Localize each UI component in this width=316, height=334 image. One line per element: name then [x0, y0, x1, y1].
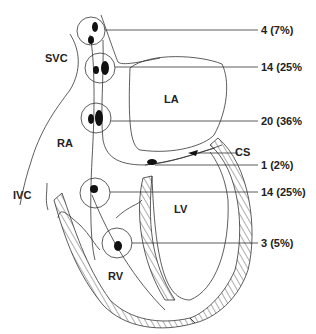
lesion-3a [88, 114, 94, 124]
rv-inner-line [116, 200, 142, 218]
lesion-1a [92, 22, 98, 32]
lesion-6 [114, 241, 122, 251]
lesion-4 [147, 159, 157, 165]
site-label-4: 1 (2%) [261, 160, 293, 171]
lesion-3b [95, 110, 103, 126]
label-la: LA [164, 94, 179, 105]
site-label-2: 14 (25% [261, 62, 302, 73]
lv-septum [139, 176, 175, 300]
site-circle-5 [80, 178, 110, 208]
label-ivc: IVC [13, 190, 31, 201]
site-label-5: 14 (25%) [261, 187, 306, 198]
label-ra: RA [57, 138, 73, 149]
label-rv: RV [108, 271, 123, 282]
site-circle-2 [85, 53, 115, 83]
ra-line-2 [102, 40, 215, 165]
lesion-5 [90, 185, 98, 193]
site-label-1: 4 (7%) [261, 25, 293, 36]
label-lv: LV [174, 204, 187, 215]
lesion-2a [93, 66, 99, 74]
lv-free-wall [190, 138, 252, 323]
label-svc: SVC [45, 53, 68, 64]
label-cs: CS [235, 147, 250, 158]
lesion-1b [88, 36, 94, 44]
site-label-3: 20 (36% [261, 116, 302, 127]
site-label-6: 3 (5%) [261, 238, 293, 249]
lesion-2b [101, 61, 109, 75]
